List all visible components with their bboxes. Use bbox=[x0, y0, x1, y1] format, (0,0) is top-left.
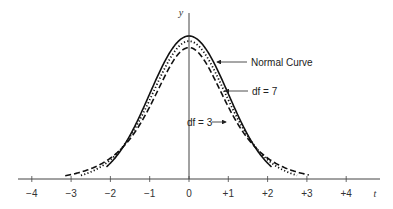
t-distribution-chart: y t −4−3−2−10+1+2+3+4 Normal Curve df = … bbox=[0, 0, 393, 209]
df3-label: df = 3 bbox=[187, 117, 213, 128]
x-tick-label: 0 bbox=[186, 188, 192, 199]
df7-label: df = 7 bbox=[252, 86, 278, 97]
x-tick-label: −4 bbox=[26, 188, 38, 199]
x-tick-label: +4 bbox=[340, 188, 352, 199]
x-tick-label: +1 bbox=[223, 188, 235, 199]
x-tick-label: +2 bbox=[262, 188, 274, 199]
x-axis-label: t bbox=[374, 188, 377, 199]
x-tick-label: −1 bbox=[144, 188, 156, 199]
x-tick-label: −2 bbox=[105, 188, 117, 199]
x-tick-label: −3 bbox=[65, 188, 77, 199]
normal-curve-label: Normal Curve bbox=[251, 57, 313, 68]
x-tick-label: +3 bbox=[301, 188, 313, 199]
y-axis-label: y bbox=[178, 7, 184, 18]
